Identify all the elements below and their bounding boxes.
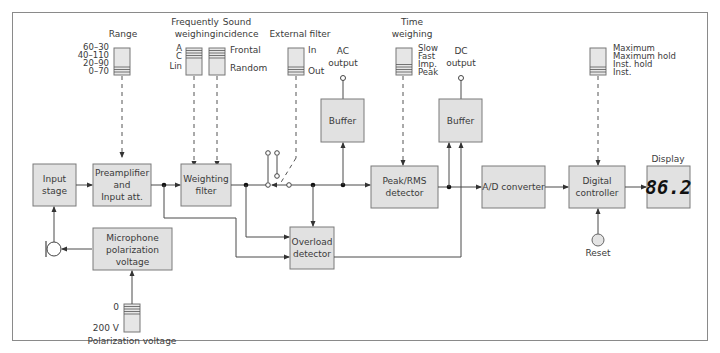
block-label: voltage — [116, 257, 150, 267]
mic-polarization-block: Microphone polarization voltage — [93, 228, 172, 270]
overload-detector-block: Overload detector — [290, 227, 334, 269]
digital-controller-block: Digital controller — [569, 166, 625, 208]
block-label: Microphone — [106, 233, 159, 243]
time-weighting-title: Time — [400, 17, 423, 27]
block-label: Weighting — [183, 174, 228, 184]
input-stage-block: Input stage — [33, 164, 76, 206]
block-label: detector — [386, 188, 424, 198]
block-label: polarization — [106, 245, 159, 255]
block-label: Input att. — [101, 192, 143, 202]
ac-buffer-block: Buffer — [321, 99, 364, 142]
sound-incidence-option: Random — [230, 63, 267, 73]
block-label: controller — [576, 188, 619, 198]
ac-output-label: output — [328, 58, 358, 68]
switch-terminal-icon — [287, 183, 292, 188]
external-filter-option: In — [308, 45, 316, 55]
slide-switch-icon[interactable] — [396, 48, 412, 75]
ext-filter-terminal-icon — [275, 151, 280, 156]
slide-switch-icon[interactable] — [124, 304, 140, 332]
block-label: and — [114, 180, 131, 190]
block-label: Peak/RMS — [382, 176, 426, 186]
freq-weighting-option: Lin — [170, 61, 182, 71]
time-weighting-option: Peak — [418, 67, 438, 77]
weighting-filter-block: Weighting filter — [181, 164, 231, 206]
dc-output-label: output — [446, 58, 476, 68]
freq-weighting-option: C — [176, 51, 182, 61]
slide-switch-icon[interactable] — [114, 48, 130, 75]
block-label: Preamplifier — [95, 168, 150, 178]
reset-button-icon[interactable] — [592, 234, 604, 246]
ac-output-terminal-icon[interactable] — [341, 76, 346, 81]
ext-filter-terminal-icon — [266, 151, 271, 156]
polarization-option: 200 V — [93, 323, 120, 333]
polarization-title: Polarization voltage — [88, 336, 177, 346]
preamplifier-block: Preamplifier and Input att. — [93, 164, 151, 206]
reset-label: Reset — [585, 248, 611, 258]
external-filter-title: External filter — [269, 29, 330, 39]
slide-switch-icon[interactable] — [288, 48, 304, 75]
block-label: Input — [43, 174, 67, 184]
switch-terminal-icon — [266, 183, 271, 188]
external-filter-option: Out — [308, 66, 325, 76]
block-label: Buffer — [447, 116, 475, 126]
peak-rms-detector-block: Peak/RMS detector — [371, 166, 438, 208]
range-option: 0–70 — [89, 66, 109, 76]
sound-incidence-title: incidence — [215, 29, 259, 39]
ac-output-label: AC — [337, 46, 349, 56]
block-label: Overload — [292, 237, 333, 247]
block-label: filter — [196, 186, 217, 196]
time-weighting-title: weighing — [392, 29, 433, 39]
freq-weighting-title: Frequently — [171, 17, 219, 27]
block-label: Buffer — [329, 116, 357, 126]
block-label: A/D converter — [482, 182, 545, 192]
slide-switch-icon[interactable] — [209, 48, 225, 75]
slide-switch-icon[interactable] — [186, 48, 202, 75]
polarization-option: 0 — [113, 302, 119, 312]
dc-output-label: DC — [454, 46, 467, 56]
freq-weighting-title: weighing — [175, 29, 216, 39]
dc-output-terminal-icon[interactable] — [459, 76, 464, 81]
range-title: Range — [109, 29, 138, 39]
slide-switch-icon[interactable] — [590, 48, 606, 75]
block-label: detector — [293, 249, 331, 259]
block-label: stage — [42, 186, 67, 196]
block-label: Digital — [582, 176, 611, 186]
display-block: Display 86.2 — [646, 154, 692, 208]
display-title: Display — [651, 154, 685, 164]
ad-converter-block: A/D converter — [482, 166, 545, 208]
hold-option: Inst. — [613, 67, 631, 77]
display-readout: 86.2 — [646, 176, 692, 198]
ext-filter-terminal-icon — [275, 174, 280, 179]
sound-level-meter-block-diagram: Range 60–30 40–110 20–90 0–70 Frequently… — [0, 0, 720, 353]
dc-buffer-block: Buffer — [439, 99, 482, 142]
sound-incidence-option: Frontal — [230, 45, 261, 55]
sound-incidence-title: Sound — [223, 17, 251, 27]
